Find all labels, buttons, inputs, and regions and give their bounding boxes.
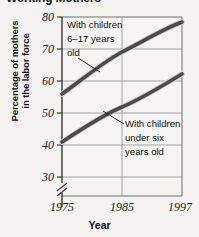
x-tick-label-1997: 1997	[168, 200, 193, 214]
y-tick-label-80: 80	[42, 10, 54, 24]
y-tick-label-70: 70	[42, 42, 54, 56]
chart-figure: Working Mothers Percentage of mothers in…	[0, 0, 199, 237]
annotation-upper-line1: With children	[67, 19, 122, 30]
annotation-upper-line2: 6–17 years	[67, 33, 115, 44]
x-tick-label-1985: 1985	[110, 200, 134, 214]
annotation-upper-line3: old	[67, 47, 80, 58]
x-tick-label-1975: 1975	[50, 200, 74, 214]
line-chart-plot: 80 70 60 50 40 30 1975 1985 1997 With ch…	[0, 0, 199, 237]
annotation-lower-line2: under six	[125, 132, 164, 143]
annotation-lower-line1: With children	[125, 118, 180, 129]
y-tick-label-40: 40	[42, 138, 54, 152]
annotation-lower-line3: years old	[125, 146, 164, 157]
y-tick-label-50: 50	[42, 106, 54, 120]
y-tick-label-30: 30	[41, 170, 54, 184]
y-tick-label-60: 60	[42, 74, 54, 88]
